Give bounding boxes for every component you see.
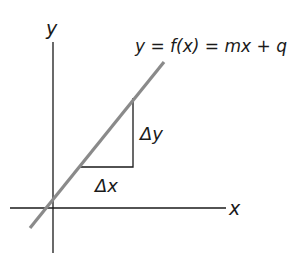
x-axis-label: x (228, 197, 241, 219)
y-axis-label: y (45, 17, 58, 39)
delta-y-label: Δy (138, 123, 163, 144)
equation-label: y = f(x) = mx + q (134, 36, 287, 56)
function-line (30, 62, 164, 228)
delta-x-label: Δx (93, 175, 118, 196)
linear-function-diagram: y x y = f(x) = mx + q Δy Δx (0, 0, 305, 260)
